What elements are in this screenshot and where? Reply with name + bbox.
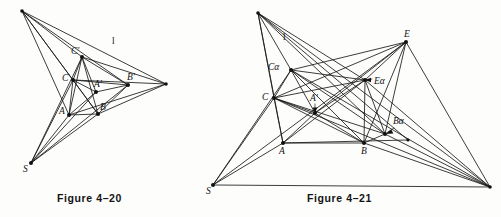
line-Ap-B xyxy=(315,113,364,143)
label-A: A xyxy=(58,106,65,116)
label-B-prime: B' xyxy=(127,72,136,82)
vertex-dot-E xyxy=(404,40,408,44)
label-C: C xyxy=(262,92,269,102)
vertex-dot-S xyxy=(29,161,33,165)
vertex-dot-R xyxy=(406,138,409,141)
label-line-l: l xyxy=(283,32,286,42)
line-A-B xyxy=(69,114,98,115)
line-A-R xyxy=(283,140,408,143)
vertex-dot-Q xyxy=(488,185,492,189)
line-Q-Ca xyxy=(291,70,490,187)
vertex-dot-A-prime xyxy=(94,90,98,94)
line-B-Q xyxy=(98,84,166,114)
line-E-Ea xyxy=(365,42,406,80)
label-C: C xyxy=(62,73,69,83)
vertex-dot-P xyxy=(256,11,260,15)
vertex-dot-C-prime xyxy=(80,55,84,59)
line-P-C xyxy=(22,11,73,80)
label-A-prime: A' xyxy=(309,93,319,103)
vertex-dot-B xyxy=(362,141,366,145)
line-Ca-C xyxy=(274,70,291,98)
line-B-Ea xyxy=(364,80,365,143)
line-A-Q xyxy=(69,84,166,115)
vertex-dot-A xyxy=(67,113,71,117)
line-P-Q xyxy=(22,11,166,84)
label-line-l: l xyxy=(112,36,115,46)
vertex-dot-P xyxy=(20,9,24,13)
line-S-Bp xyxy=(31,85,128,163)
line-Cp-A xyxy=(69,57,82,115)
label-E: E xyxy=(403,29,410,39)
label-S: S xyxy=(206,186,211,196)
vertex-dot-S xyxy=(211,183,215,187)
vertex-dot-B-alpha xyxy=(383,132,387,136)
line-S-A xyxy=(213,143,283,185)
line-S-C xyxy=(213,98,274,185)
line-Q-E xyxy=(406,42,490,187)
line-Ca-Ea xyxy=(291,70,365,80)
vertex-dot-B-prime xyxy=(126,83,130,87)
line-P-Q xyxy=(258,13,490,187)
figure-4-21-vertices xyxy=(211,11,492,189)
figure-4-21-lines xyxy=(213,13,490,187)
caption-figure-4-20: Figure 4–20 xyxy=(57,192,122,204)
vertex-dot-C-alpha xyxy=(289,68,293,72)
label-A: A xyxy=(278,146,285,156)
vertex-dot-Q xyxy=(164,82,168,86)
label-B-alpha: Bα xyxy=(393,116,405,126)
label-C-prime: C' xyxy=(71,46,80,56)
line-A-C xyxy=(69,80,73,115)
vertex-dot-C xyxy=(272,96,276,100)
label-E-alpha: Eα xyxy=(373,76,386,86)
label-A-prime: A' xyxy=(93,79,103,89)
line-A-Ap xyxy=(283,113,315,143)
line-C-Q xyxy=(73,80,166,84)
caption-figure-4-21: Figure 4–21 xyxy=(307,192,372,204)
label-B: B xyxy=(100,102,106,112)
vertex-dot-A xyxy=(281,141,285,145)
label-S: S xyxy=(23,164,28,174)
figure-4-21-diagram: Cα C A' Eα Bα E A B S l xyxy=(205,0,501,217)
vertex-dot-C xyxy=(71,78,75,82)
line-S-C xyxy=(31,80,73,163)
figure-page: C' C A' B' A B S l xyxy=(0,0,501,217)
line-S-Q xyxy=(213,185,490,187)
label-C-alpha: Cα xyxy=(268,62,280,72)
vertex-dot-E-alpha xyxy=(363,78,367,82)
vertex-dot-B xyxy=(96,112,100,116)
label-B: B xyxy=(361,146,367,156)
vertex-dot-A-prime xyxy=(313,111,317,115)
line-l-right xyxy=(258,13,408,140)
